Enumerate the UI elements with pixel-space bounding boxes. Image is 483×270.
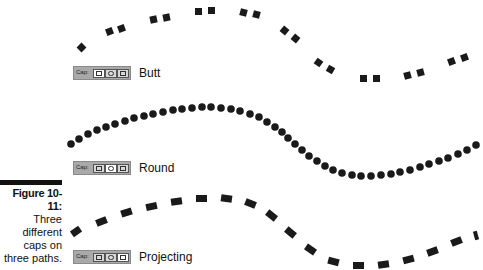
figure-caption: Figure 10-11: Three different caps on th… bbox=[0, 187, 62, 265]
paths-illustration bbox=[0, 0, 483, 270]
cap-panel-round: Cap: bbox=[73, 161, 131, 175]
cap-panel-butt: Cap: bbox=[73, 66, 131, 80]
cap-type-round: Round bbox=[139, 161, 174, 175]
cap-panel-projecting: Cap: bbox=[73, 250, 131, 264]
caption-line: three paths. bbox=[0, 252, 62, 265]
cap-label: Cap: bbox=[76, 164, 89, 170]
butt-path bbox=[77, 7, 469, 82]
caption-line: caps on bbox=[0, 239, 62, 252]
round-cap-button[interactable] bbox=[105, 253, 117, 262]
projecting-cap-button[interactable] bbox=[117, 253, 129, 262]
cap-type-projecting: Projecting bbox=[139, 250, 192, 264]
butt-cap-button[interactable] bbox=[93, 69, 105, 78]
butt-cap-button[interactable] bbox=[93, 253, 105, 262]
round-cap-button[interactable] bbox=[105, 69, 117, 78]
projecting-path bbox=[70, 194, 479, 269]
round-cap-button[interactable] bbox=[105, 164, 117, 173]
butt-cap-button[interactable] bbox=[93, 164, 105, 173]
caption-rule bbox=[0, 180, 62, 185]
figure-number: Figure 10-11: bbox=[0, 187, 62, 213]
caption-line: different bbox=[0, 226, 62, 239]
projecting-cap-button[interactable] bbox=[117, 164, 129, 173]
cap-label: Cap: bbox=[76, 253, 89, 259]
cap-label: Cap: bbox=[76, 69, 89, 75]
caption-line: Three bbox=[0, 213, 62, 226]
projecting-cap-button[interactable] bbox=[117, 69, 129, 78]
cap-type-butt: Butt bbox=[139, 66, 160, 80]
